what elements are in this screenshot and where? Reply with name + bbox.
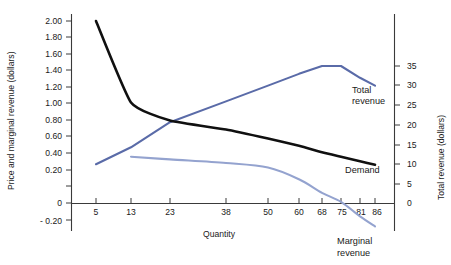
y-axis-right-title: Total revenue (dollars) — [436, 115, 446, 200]
y-left-tick-label: 1.40 — [45, 65, 62, 75]
y-left-tick-label: 1.20 — [45, 82, 62, 92]
y-right-tick-label: 20 — [407, 120, 417, 130]
y-axis-left-title: Price and marginal revenue (dollars) — [6, 51, 16, 190]
x-tick-label: 75 — [337, 207, 347, 217]
x-axis-labels: 5 13 23 38 50 60 68 75 81 86 — [94, 207, 382, 217]
chart-figure: Price and marginal revenue (dollars) Tot… — [0, 0, 451, 265]
y-left-tick-label: 0.60 — [45, 131, 62, 141]
x-tick-label: 38 — [221, 207, 231, 217]
y-left-tick-label: 0.80 — [45, 115, 62, 125]
y-left-tick-label: 0.20 — [45, 165, 62, 175]
y-axis-left-labels: 2.00 1.80 1.60 1.40 1.20 1.00 0.80 0.60 … — [40, 16, 62, 226]
y-axis-right-labels: 35 30 25 20 15 10 5 0 — [407, 61, 417, 208]
y-right-tick-label: 25 — [407, 100, 417, 110]
x-tick-label: 23 — [165, 207, 175, 217]
y-right-tick-label: 0 — [407, 198, 412, 208]
x-tick-label: 50 — [263, 207, 273, 217]
series-line-total-revenue — [96, 66, 375, 164]
y-right-tick-label: 30 — [407, 80, 417, 90]
x-tick-label: 60 — [294, 207, 304, 217]
y-left-tick-label: 1.60 — [45, 49, 62, 59]
y-axis-right-ticks — [395, 66, 401, 184]
x-axis-title: Quantity — [203, 229, 236, 239]
y-right-tick-label: 15 — [407, 140, 417, 150]
x-tick-label: 68 — [317, 207, 327, 217]
series-label-total-revenue-line2: revenue — [352, 96, 385, 106]
y-left-tick-label: 1.80 — [45, 32, 62, 42]
y-right-tick-label: 35 — [407, 61, 417, 71]
series-label-marginal-revenue: Marginal — [337, 236, 372, 246]
series-label-demand: Demand — [345, 165, 380, 175]
y-left-tick-label: - 0.20 — [40, 216, 62, 226]
x-tick-label: 86 — [372, 207, 382, 217]
y-left-tick-label: 1.00 — [45, 98, 62, 108]
y-right-tick-label: 5 — [407, 179, 412, 189]
y-left-tick-label: 2.00 — [45, 16, 62, 26]
series-label-marginal-revenue-line2: revenue — [337, 248, 370, 258]
series-label-total-revenue: Total — [352, 85, 371, 95]
y-right-tick-label: 10 — [407, 159, 417, 169]
chart-svg: Price and marginal revenue (dollars) Tot… — [0, 0, 451, 265]
y-axis-left-ticks — [66, 21, 72, 220]
y-left-tick-label: 0 — [57, 198, 62, 208]
x-tick-label: 5 — [94, 207, 99, 217]
x-tick-label: 13 — [126, 207, 136, 217]
y-left-tick-label: 0.40 — [45, 148, 62, 158]
